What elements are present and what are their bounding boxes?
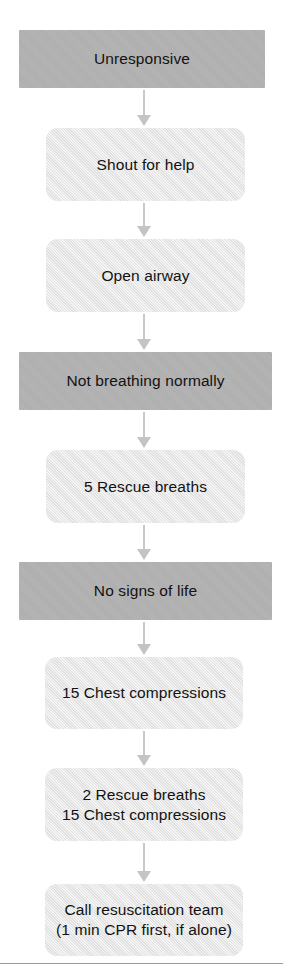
arrow-stem — [143, 90, 145, 115]
arrow-stem — [143, 412, 145, 437]
arrow-stem — [143, 203, 145, 226]
flow-node-open-airway: Open airway — [46, 239, 245, 312]
flow-node-label: Open airway — [101, 266, 189, 286]
flow-arrow-unresponsive-to-shout — [137, 90, 151, 126]
arrow-head-icon — [137, 437, 151, 448]
flow-node-five-rescue-breaths: 5 Rescue breaths — [46, 450, 245, 523]
flow-arrow-shout-to-open-airway — [137, 203, 151, 237]
flow-node-not-breathing-normally: Not breathing normally — [19, 352, 272, 410]
flow-node-two-breaths-fifteen-compressions: 2 Rescue breaths 15 Chest compressions — [45, 768, 243, 841]
flow-arrow-not-breathing-to-five-breaths — [137, 412, 151, 448]
flow-node-call-resuscitation-team: Call resuscitation team (1 min CPR first… — [45, 884, 243, 956]
flow-node-fifteen-chest-compressions: 15 Chest compressions — [45, 657, 243, 729]
flow-node-label: Unresponsive — [94, 49, 190, 69]
arrow-stem — [143, 314, 145, 339]
arrow-head-icon — [137, 549, 151, 560]
arrow-head-icon — [137, 644, 151, 655]
arrow-head-icon — [137, 339, 151, 350]
flow-node-shout-for-help: Shout for help — [46, 128, 245, 201]
flow-node-label: Shout for help — [97, 155, 195, 175]
flow-arrow-compressions-to-cycle — [137, 731, 151, 766]
flow-node-label: Call resuscitation team (1 min CPR first… — [56, 900, 232, 940]
flow-node-label: No signs of life — [94, 581, 197, 601]
flow-node-label: 2 Rescue breaths 15 Chest compressions — [62, 785, 226, 825]
arrow-head-icon — [137, 755, 151, 766]
flow-node-label: 5 Rescue breaths — [84, 477, 207, 497]
flow-node-label: Not breathing normally — [66, 371, 224, 391]
flow-arrow-five-breaths-to-no-signs — [137, 525, 151, 560]
flow-node-label: 15 Chest compressions — [62, 683, 226, 703]
arrow-head-icon — [137, 871, 151, 882]
arrow-stem — [143, 843, 145, 871]
arrow-stem — [143, 525, 145, 549]
footer-divider-rule — [0, 963, 283, 964]
arrow-head-icon — [137, 115, 151, 126]
arrow-stem — [143, 622, 145, 644]
flow-arrow-no-signs-to-compressions — [137, 622, 151, 655]
arrow-stem — [143, 731, 145, 755]
arrow-head-icon — [137, 226, 151, 237]
flow-arrow-cycle-to-call-team — [137, 843, 151, 882]
flow-node-no-signs-of-life: No signs of life — [19, 562, 272, 620]
flow-node-unresponsive: Unresponsive — [19, 30, 265, 88]
flow-arrow-open-airway-to-not-breathing — [137, 314, 151, 350]
resuscitation-flowchart: UnresponsiveShout for helpOpen airwayNot… — [0, 0, 283, 973]
